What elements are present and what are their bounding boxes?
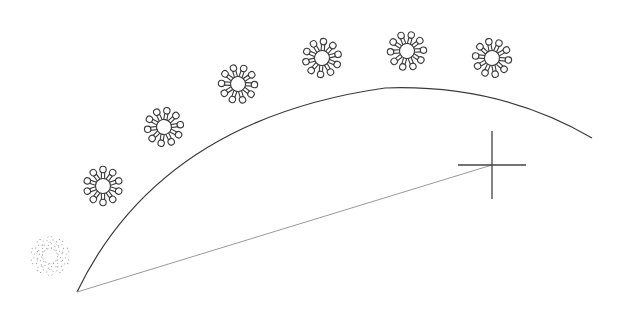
virus-icon (141, 104, 187, 150)
drawing-canvas[interactable] (0, 0, 621, 311)
virus-icon (466, 32, 518, 84)
virus-icon (301, 37, 344, 80)
arc-icon-array (83, 27, 518, 206)
virus-icon (383, 27, 431, 75)
arc-curve[interactable] (77, 88, 592, 292)
virus-icon (213, 59, 264, 110)
rubber-band-line (77, 165, 492, 292)
virus-ghost-icon (30, 236, 69, 275)
virus-icon (83, 166, 122, 205)
crosshair-cursor-icon (458, 131, 526, 199)
virus-ghost-icon (30, 236, 69, 275)
